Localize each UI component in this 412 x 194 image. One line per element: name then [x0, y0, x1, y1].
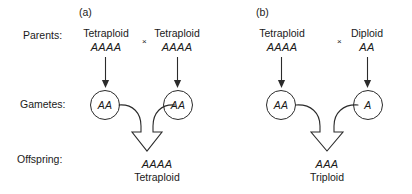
panel-b-gamete-left: AA — [266, 90, 296, 120]
panel-a-left-parent-arrow — [98, 57, 114, 89]
panel-a-offspring-ploidy: Tetraploid — [107, 171, 207, 184]
panel-a-parent-right-genotype: AAAA — [132, 40, 222, 54]
panel-b-fusion-arrow — [293, 99, 363, 155]
panel-a-offspring: AAAA Tetraploid — [107, 157, 207, 184]
panel-b-gamete-left-genotype: AA — [274, 100, 289, 110]
panel-a-gamete-left-genotype: AA — [98, 100, 113, 110]
panel-b-parent-left-genotype: AAAA — [237, 40, 327, 54]
panel-b-parent-left: Tetraploid AAAA — [237, 27, 327, 54]
panel-a-fusion-arrow — [116, 99, 178, 155]
ploidy-cross-diagram: (a) (b) Parents: Gametes: Offspring: Tet… — [0, 0, 412, 194]
row-label-gametes: Gametes: — [20, 98, 66, 110]
panel-a-parent-right-ploidy: Tetraploid — [132, 27, 222, 40]
panel-b-left-parent-arrow — [274, 57, 290, 89]
panel-b-right-parent-arrow — [360, 57, 376, 89]
panel-b-offspring-genotype: AAA — [277, 157, 377, 171]
row-label-parents: Parents: — [23, 29, 62, 41]
panel-b-parent-right: Diploid AA — [322, 27, 412, 54]
panel-a-offspring-genotype: AAAA — [107, 157, 207, 171]
panel-letter-a: (a) — [79, 6, 92, 18]
panel-b-gamete-right-genotype: A — [364, 100, 371, 110]
panel-b-parent-right-ploidy: Diploid — [322, 27, 412, 40]
panel-letter-b: (b) — [256, 6, 269, 18]
panel-b-parent-left-ploidy: Tetraploid — [237, 27, 327, 40]
panel-a-right-parent-arrow — [170, 57, 186, 89]
panel-b-offspring: AAA Triploid — [277, 157, 377, 184]
panel-a-parent-right: Tetraploid AAAA — [132, 27, 222, 54]
panel-b-parent-right-genotype: AA — [322, 40, 412, 54]
row-label-offspring: Offspring: — [17, 153, 62, 165]
panel-b-offspring-ploidy: Triploid — [277, 171, 377, 184]
